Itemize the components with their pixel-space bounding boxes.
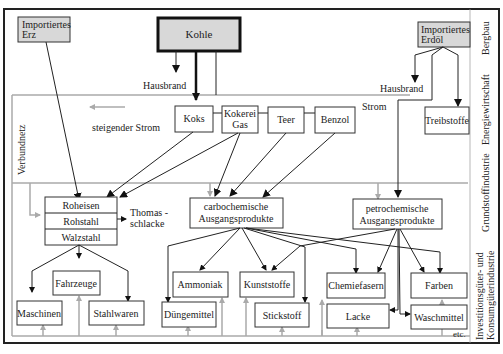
svg-text:Fahrzeuge: Fahrzeuge (55, 278, 97, 289)
product-duengemittel: Düngemittel (162, 302, 216, 327)
product-stickstoff: Stickstoff (255, 303, 309, 327)
svg-text:Lacke: Lacke (346, 311, 371, 322)
source-importiertes-erz: Importiertes Erz (18, 17, 71, 42)
sector-invest: Investitionsgüter- und (474, 252, 485, 340)
product-ammoniak: Ammoniak (173, 272, 228, 297)
treibstoffe-box: Treibstoffe (425, 107, 470, 134)
source-kohle: Kohle (158, 18, 240, 51)
verbundnetz-label: Verbundnetz (16, 124, 27, 175)
product-stahlwaren: Stahlwaren (89, 301, 144, 325)
svg-text:Rohstahl: Rohstahl (63, 216, 99, 227)
sector-energie: Energiewirtschaft (480, 74, 491, 145)
svg-text:Stickstoff: Stickstoff (263, 310, 302, 321)
svg-text:Düngemittel: Düngemittel (164, 309, 214, 320)
strom-label: Strom (362, 101, 387, 112)
product-chemiefasern: Chemiefasern (327, 273, 385, 298)
svg-text:Roheisen: Roheisen (62, 200, 99, 211)
svg-text:Kunststoffe: Kunststoffe (244, 279, 291, 290)
svg-text:Erdöl: Erdöl (421, 34, 443, 45)
product-kunststoffe: Kunststoffe (240, 272, 294, 297)
hausbrand-left-label: Hausbrand (143, 80, 186, 91)
svg-text:Benzol: Benzol (321, 114, 350, 125)
thomas-label: Thomas - (130, 207, 168, 218)
sector-invest-2: Konsumgüterindustrie (485, 250, 496, 340)
svg-text:Kokerei: Kokerei (224, 108, 256, 119)
svg-text:Farben: Farben (425, 280, 453, 291)
product-farben: Farben (411, 273, 467, 298)
steigender-strom-label: steigender Strom (92, 122, 160, 133)
product-maschinen: Maschinen (17, 301, 62, 325)
svg-text:Treibstoffe: Treibstoffe (425, 115, 469, 126)
industry-flow-diagram: Importiertes Erz Kohle Importiertes Erdö… (0, 0, 503, 354)
steel-stack: Roheisen Rohstahl Walzstahl (45, 197, 117, 245)
etc-label: etc. (453, 329, 466, 339)
product-lacke: Lacke (327, 304, 389, 328)
coal-products: Koks Kokerei Gas Teer Benzol (175, 106, 355, 133)
svg-text:Chemiefasern: Chemiefasern (328, 280, 384, 291)
petrochemische-box: petrochemische Ausgangsprodukte (353, 199, 442, 229)
svg-text:Ausgangsprodukte: Ausgangsprodukte (199, 213, 275, 224)
svg-text:Waschmittel: Waschmittel (414, 312, 464, 323)
svg-text:carbochemische: carbochemische (204, 201, 269, 212)
svg-text:Ausgangsprodukte: Ausgangsprodukte (360, 215, 436, 226)
product-fahrzeuge: Fahrzeuge (53, 271, 100, 295)
svg-text:Gas: Gas (232, 119, 248, 130)
carbochemische-box: carbochemische Ausgangsprodukte (190, 198, 283, 228)
svg-text:Ammoniak: Ammoniak (178, 279, 223, 290)
product-waschmittel: Waschmittel (411, 305, 467, 329)
svg-text:Koks: Koks (183, 113, 204, 124)
thomas-label-2: schlacke (130, 218, 165, 229)
svg-text:Maschinen: Maschinen (17, 308, 61, 319)
svg-text:Teer: Teer (277, 114, 295, 125)
svg-text:petrochemische: petrochemische (366, 203, 429, 214)
hausbrand-right-label: Hausbrand (380, 83, 423, 94)
svg-text:Erz: Erz (22, 29, 36, 40)
sector-grundstoff: Grundstoffindustrie (480, 153, 491, 232)
svg-text:Stahlwaren: Stahlwaren (94, 308, 139, 319)
svg-text:Kohle: Kohle (186, 28, 213, 40)
sector-bergbau: Bergbau (480, 21, 491, 55)
source-importiertes-erdoel: Importiertes Erdöl (418, 22, 470, 47)
svg-text:Walzstahl: Walzstahl (61, 232, 100, 243)
